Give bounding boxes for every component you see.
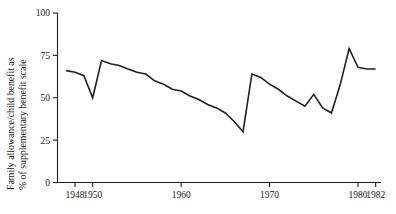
- y-tick-marks: [53, 13, 58, 183]
- x-tick-labels: 194819501960197019801982: [66, 190, 386, 200]
- x-tick-label-1950: 1950: [83, 190, 102, 200]
- y-axis-label-line-2: % of supplementary benefit scale: [17, 59, 28, 190]
- line-chart: Family allowance/child benefit as % of s…: [0, 0, 396, 214]
- x-tick-label-1948: 1948: [66, 190, 85, 200]
- y-tick-labels: 0255075100: [36, 8, 51, 188]
- x-tick-label-1960: 1960: [172, 190, 191, 200]
- y-tick-label-100: 100: [36, 8, 51, 18]
- y-tick-label-25: 25: [41, 136, 51, 146]
- x-tick-label-1980: 1980: [349, 190, 368, 200]
- x-tick-label-1970: 1970: [260, 190, 279, 200]
- y-tick-label-75: 75: [41, 51, 51, 61]
- x-tick-label-1982: 1982: [366, 190, 385, 200]
- y-tick-label-0: 0: [45, 178, 50, 188]
- y-axis-label: Family allowance/child benefit as % of s…: [5, 57, 28, 190]
- y-axis-label-line-1: Family allowance/child benefit as: [5, 57, 16, 190]
- chart-container: Family allowance/child benefit as % of s…: [0, 0, 396, 214]
- data-series-line: [66, 49, 376, 132]
- y-tick-label-50: 50: [41, 93, 51, 103]
- x-tick-marks: [75, 183, 376, 188]
